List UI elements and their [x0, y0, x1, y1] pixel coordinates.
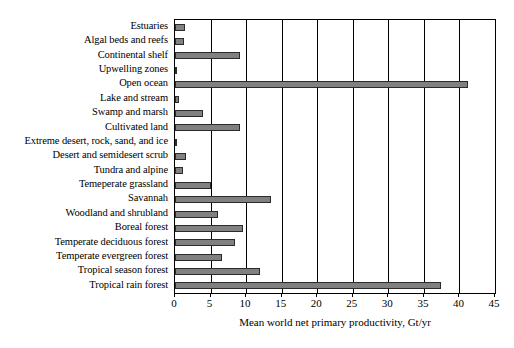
bar-row [175, 250, 495, 264]
bar [175, 67, 177, 74]
bar [175, 38, 184, 45]
y-axis-label: Upwelling zones [99, 64, 168, 75]
x-axis-tick-label: 25 [346, 298, 357, 309]
y-axis-label-row: Tropical rain forest [0, 278, 172, 292]
x-axis-tick-label: 15 [275, 298, 286, 309]
y-axis-label: Algal beds and reefs [84, 35, 168, 46]
y-axis-label: Temperate deciduous forest [55, 237, 168, 248]
y-axis-label: Savannah [128, 193, 168, 204]
y-axis-label: Swamp and marsh [92, 107, 168, 118]
y-axis-label: Temperate evergreen forest [56, 251, 168, 262]
x-axis-tick-label: 35 [417, 298, 428, 309]
bar [175, 52, 240, 59]
y-axis-label-row: Algal beds and reefs [0, 33, 172, 47]
y-axis-label-row: Tropical season forest [0, 263, 172, 277]
x-axis-title: Mean world net primary productivity, Gt/… [174, 316, 496, 328]
y-axis-label: Open ocean [119, 78, 168, 89]
bar [175, 81, 468, 88]
bar-row [175, 178, 495, 192]
bar [175, 239, 235, 246]
y-axis-label-row: Continental shelf [0, 48, 172, 62]
y-axis-label: Continental shelf [98, 50, 168, 61]
x-axis-tick-labels: 051015202530354045 [174, 298, 496, 314]
y-axis-label-row: Temperate evergreen forest [0, 249, 172, 263]
bar [175, 282, 441, 289]
bar-row [175, 264, 495, 278]
x-axis-tick-label: 20 [311, 298, 322, 309]
bar [175, 24, 185, 31]
bar [175, 268, 260, 275]
x-axis-tick-label: 0 [171, 298, 177, 309]
bar [175, 211, 218, 218]
y-axis-label: Tropical season forest [78, 265, 168, 276]
y-axis-label-row: Lake and stream [0, 91, 172, 105]
y-axis-label: Cultivated land [105, 122, 168, 133]
bar-row [175, 106, 495, 120]
y-axis-label-row: Cultivated land [0, 120, 172, 134]
bar-row [175, 135, 495, 149]
bar [175, 167, 183, 174]
plot-area [174, 19, 496, 294]
bar-row [175, 92, 495, 106]
bar-row [175, 121, 495, 135]
y-axis-label-row: Swamp and marsh [0, 105, 172, 119]
y-axis-label-row: Open ocean [0, 77, 172, 91]
bar [175, 96, 179, 103]
x-axis-tick-label: 40 [453, 298, 464, 309]
y-axis-label: Lake and stream [100, 93, 168, 104]
bar-row [175, 63, 495, 77]
bar [175, 124, 240, 131]
y-axis-label-row: Boreal forest [0, 220, 172, 234]
y-axis-label-row: Temeperate grassland [0, 177, 172, 191]
bar-row [175, 164, 495, 178]
bar-row [175, 149, 495, 163]
y-axis-label: Extreme desert, rock, sand, and ice [25, 136, 168, 147]
x-axis-tick-label: 45 [489, 298, 500, 309]
bar [175, 254, 222, 261]
bar-row [175, 49, 495, 63]
bar-row [175, 221, 495, 235]
bar-row [175, 20, 495, 34]
y-axis-label: Boreal forest [115, 222, 168, 233]
bar-row [175, 236, 495, 250]
x-axis-tick-label: 30 [382, 298, 393, 309]
x-axis-tick-label: 5 [207, 298, 213, 309]
y-axis-label: Tundra and alpine [94, 165, 168, 176]
x-axis-tick-label: 10 [240, 298, 251, 309]
y-axis-label-row: Temperate deciduous forest [0, 235, 172, 249]
bar-series [175, 20, 495, 293]
y-axis-label: Tropical rain forest [89, 280, 168, 291]
y-axis-label-row: Estuaries [0, 19, 172, 33]
bar [175, 196, 271, 203]
y-axis-label-row: Savannah [0, 192, 172, 206]
y-axis-label-row: Extreme desert, rock, sand, and ice [0, 134, 172, 148]
y-axis-label-column: EstuariesAlgal beds and reefsContinental… [0, 19, 172, 292]
y-axis-label-row: Tundra and alpine [0, 163, 172, 177]
horizontal-bar-chart: EstuariesAlgal beds and reefsContinental… [0, 0, 514, 348]
y-axis-label: Temeperate grassland [79, 179, 168, 190]
bar-row [175, 34, 495, 48]
bar [175, 182, 211, 189]
y-axis-label: Estuaries [130, 21, 168, 32]
bar [175, 225, 243, 232]
bar [175, 153, 186, 160]
bar-row [175, 279, 495, 293]
y-axis-label: Desert and semidesert scrub [53, 150, 168, 161]
y-axis-label-row: Desert and semidesert scrub [0, 148, 172, 162]
bar [175, 139, 177, 146]
bar-row [175, 78, 495, 92]
y-axis-label: Woodland and shrubland [65, 208, 168, 219]
y-axis-label-row: Woodland and shrubland [0, 206, 172, 220]
bar [175, 110, 203, 117]
bar-row [175, 193, 495, 207]
y-axis-label-row: Upwelling zones [0, 62, 172, 76]
bar-row [175, 207, 495, 221]
